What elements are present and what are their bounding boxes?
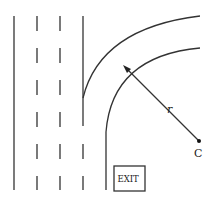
- radius-arrow: [127, 69, 199, 141]
- ramp-inner-edge: [106, 48, 200, 190]
- exit-ramp-diagram: r C EXIT: [0, 0, 220, 205]
- ramp-outer-edge: [83, 16, 200, 98]
- exit-sign-label: EXIT: [118, 174, 140, 184]
- center-label: C: [194, 147, 202, 160]
- radius-label: r: [167, 103, 173, 116]
- center-point: [197, 139, 201, 143]
